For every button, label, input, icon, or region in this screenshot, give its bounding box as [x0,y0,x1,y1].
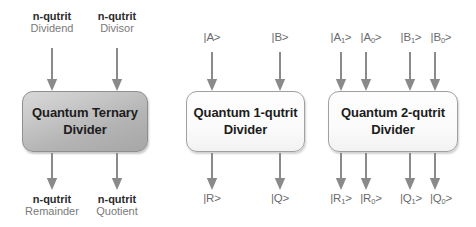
arrow-r-out [206,153,219,195]
ket-a1-base: |A [331,31,341,43]
ket-a0-base: |A [361,31,371,43]
ket-label-r-out: |R> [203,192,220,204]
ket-label-q1-out: |Q1> [400,192,422,204]
ket-r1-base: |R [330,192,341,204]
output-label-remainder-bold: n-qutrit [25,193,79,205]
arrow-remainder-out [46,153,59,195]
output-label-remainder: n-qutrit Remainder [25,193,79,218]
ket-label-r1-out: |R1> [330,192,351,204]
ket-r0-sub: 0 [371,197,375,206]
input-label-divisor: n-qutrit Divisor [98,10,136,35]
ket-q0-sub: 0 [442,197,446,206]
ket-label-b1-in: |B1> [401,31,422,43]
output-label-quotient-bold: n-qutrit [96,193,138,205]
block-quantum-2-qutrit-divider[interactable]: Quantum 2-qutrit Divider [328,91,458,152]
arrow-a1-in [335,52,348,96]
input-label-dividend: n-qutrit Dividend [31,10,74,35]
ket-q0-tail: > [446,192,453,204]
ket-b1-sub: 1 [411,36,415,45]
arrow-b1-in [404,52,417,96]
ket-label-b-in: |B> [272,31,289,43]
ket-a1-sub: 1 [341,36,345,45]
arrow-a-in [206,52,219,96]
ket-q1-sub: 1 [412,197,416,206]
arrow-divisor-in [111,48,124,96]
block-2qutrit-title-line1: Quantum 2-qutrit [341,105,445,121]
block-quantum-ternary-divider[interactable]: Quantum Ternary Divider [22,91,148,152]
block-2qutrit-title-line2: Divider [341,122,445,138]
output-label-quotient: n-qutrit Quotient [96,193,138,218]
input-label-divisor-bold: n-qutrit [98,10,136,22]
ket-a0-tail: > [375,31,382,43]
ket-label-a-in: |A> [204,31,221,43]
arrow-a0-in [360,52,373,96]
arrow-q0-out [429,153,442,195]
ket-r0-base: |R [360,192,371,204]
ket-b0-base: |B [431,31,441,43]
ket-a0-sub: 0 [371,36,375,45]
output-label-remainder-regular: Remainder [25,205,79,217]
ket-label-r0-out: |R0> [360,192,381,204]
ket-b0-sub: 0 [441,36,445,45]
input-label-dividend-bold: n-qutrit [31,10,74,22]
arrow-b0-in [429,52,442,96]
block-1qutrit-title-line1: Quantum 1-qutrit [194,105,298,121]
input-label-dividend-regular: Dividend [31,22,74,34]
ket-b1-tail: > [415,31,422,43]
block-quantum-1-qutrit-divider[interactable]: Quantum 1-qutrit Divider [186,91,305,152]
ket-q0-base: |Q [430,192,442,204]
block-ternary-title-line2: Divider [32,122,138,138]
block-ternary-title-line1: Quantum Ternary [32,105,138,121]
ket-q1-tail: > [416,192,423,204]
ket-a1-tail: > [345,31,352,43]
arrow-r0-out [360,153,373,195]
diagram-canvas: n-qutrit Dividend n-qutrit Divisor Quant… [0,0,476,227]
arrow-q1-out [404,153,417,195]
ket-q1-base: |Q [400,192,412,204]
output-label-quotient-regular: Quotient [96,205,138,217]
ket-b1-base: |B [401,31,411,43]
ket-r1-sub: 1 [341,197,345,206]
ket-r1-tail: > [345,192,352,204]
input-label-divisor-regular: Divisor [98,22,136,34]
ket-label-q0-out: |Q0> [430,192,452,204]
ket-b0-tail: > [445,31,452,43]
block-1qutrit-title-line2: Divider [194,122,298,138]
ket-label-q-out: |Q> [271,192,289,204]
arrow-q-out [274,153,287,195]
arrow-quotient-out [111,153,124,195]
ket-label-a0-in: |A0> [361,31,382,43]
arrow-dividend-in [46,48,59,96]
arrow-r1-out [335,153,348,195]
ket-r0-tail: > [375,192,382,204]
ket-label-a1-in: |A1> [331,31,352,43]
arrow-b-in [274,52,287,96]
ket-label-b0-in: |B0> [431,31,452,43]
